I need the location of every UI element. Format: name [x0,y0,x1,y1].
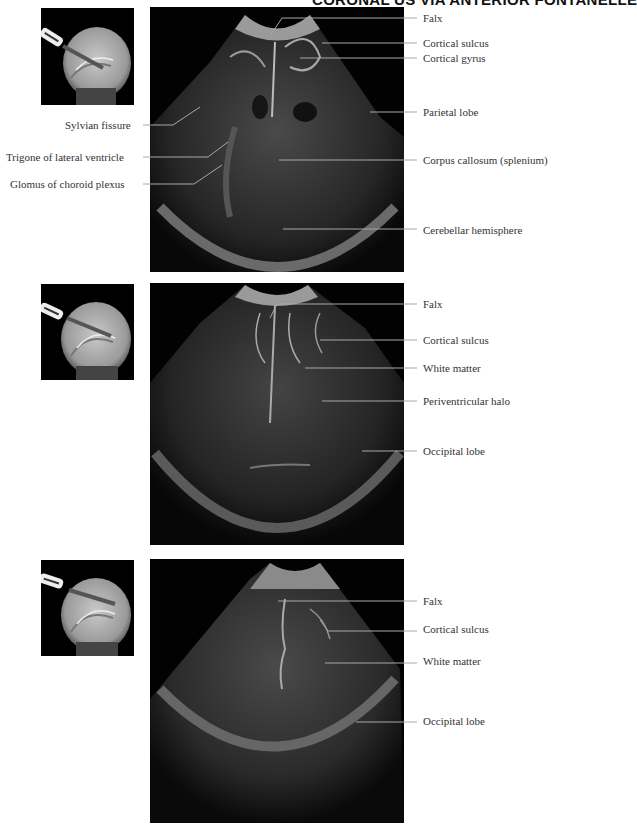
label-occipital-lobe: Occipital lobe [423,445,485,457]
label-white-matter: White matter [423,362,481,374]
label-falx: Falx [423,12,443,24]
label-parietal-lobe: Parietal lobe [423,106,478,118]
label-glomus-choroid-plexus: Glomus of choroid plexus [10,178,125,190]
label-cortical-gyrus: Cortical gyrus [423,52,486,64]
ultrasound-image-1 [150,7,404,272]
ultrasound-image-3 [150,559,404,823]
label-cortical-sulcus: Cortical sulcus [423,37,489,49]
label-sylvian-fissure: Sylvian fissure [65,119,131,131]
label-falx: Falx [423,298,443,310]
ultrasound-image-2 [150,283,404,545]
sagittal-mri-thumbnail-1 [41,8,134,105]
label-occipital-lobe: Occipital lobe [423,715,485,727]
label-periventricular-halo: Periventricular halo [423,395,510,407]
label-cortical-sulcus: Cortical sulcus [423,623,489,635]
sagittal-mri-thumbnail-2 [41,284,134,380]
label-trigone-lateral-ventricle: Trigone of lateral ventricle [6,151,124,163]
label-white-matter: White matter [423,655,481,667]
label-cerebellar-hemisphere: Cerebellar hemisphere [423,224,522,236]
label-cortical-sulcus: Cortical sulcus [423,334,489,346]
sagittal-mri-thumbnail-3 [41,560,134,656]
label-falx: Falx [423,595,443,607]
label-corpus-callosum-splenium: Corpus callosum (splenium) [423,154,548,166]
